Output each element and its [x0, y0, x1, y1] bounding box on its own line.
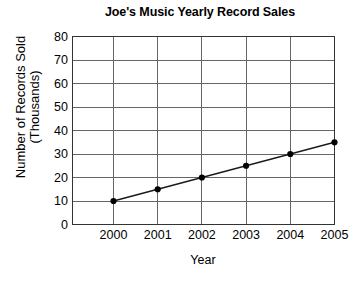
data-series-line	[114, 142, 335, 201]
x-axis-tick-labels: 200020012002200320042005	[0, 229, 347, 245]
x-tick-label: 2004	[267, 229, 313, 242]
x-tick-label: 2003	[223, 229, 269, 242]
x-tick-label: 2002	[179, 229, 225, 242]
x-axis-title: Year	[72, 253, 334, 267]
x-tick-label: 2000	[91, 229, 137, 242]
grid-lines	[73, 37, 335, 225]
x-tick-label: 2005	[312, 229, 353, 242]
x-tick-label: 2001	[135, 229, 181, 242]
